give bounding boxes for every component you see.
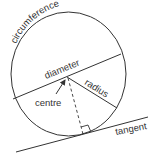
right-angle-marker xyxy=(81,125,91,132)
centre-label: centre xyxy=(35,97,61,108)
circumference-label: circumference xyxy=(8,0,60,45)
perpendicular-dashed-line xyxy=(68,78,83,134)
centre-arrow xyxy=(56,80,65,94)
tangent-label: tangent xyxy=(114,120,148,137)
circle-outline xyxy=(11,12,126,136)
diameter-label: diameter xyxy=(43,57,81,81)
circle-parts-diagram: circumference diameter radius centre tan… xyxy=(0,0,160,162)
